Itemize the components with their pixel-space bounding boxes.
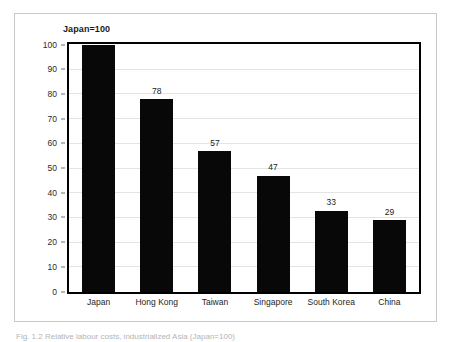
x-axis-category-label: Singapore — [254, 297, 293, 307]
y-axis-tick-mark — [61, 143, 65, 144]
y-axis-tick-mark — [61, 69, 65, 70]
y-axis-tick-mark — [61, 266, 65, 267]
y-axis-tick-mark — [61, 118, 65, 119]
gridline — [69, 143, 419, 144]
y-axis-tick-label: 0 — [52, 287, 57, 297]
gridline — [69, 93, 419, 94]
y-axis-tick-mark — [61, 93, 65, 94]
y-axis-tick-mark — [61, 168, 65, 169]
x-axis-category-label: Hong Kong — [135, 297, 178, 307]
y-axis-tick-mark — [61, 291, 65, 292]
plot-area — [67, 42, 421, 294]
y-axis-tick-label: 20 — [48, 237, 57, 247]
figure-caption: Fig. 1.2 Relative labour costs, industri… — [16, 332, 426, 342]
y-axis-tick-label: 70 — [48, 114, 57, 124]
y-axis-tick-label: 60 — [48, 138, 57, 148]
y-axis-tick-label: 100 — [43, 40, 57, 50]
chart-title: Japan=100 — [63, 24, 110, 34]
y-axis: 0102030405060708090100 — [15, 42, 65, 294]
x-axis-category-label: South Korea — [308, 297, 355, 307]
gridline — [69, 69, 419, 70]
gridline — [69, 217, 419, 218]
y-axis-tick-mark — [61, 217, 65, 218]
y-axis-tick-label: 30 — [48, 212, 57, 222]
x-axis-category-label: Japan — [87, 297, 110, 307]
gridlines — [69, 44, 419, 292]
gridline — [69, 266, 419, 267]
x-axis-category-label: Taiwan — [202, 297, 228, 307]
y-axis-tick-mark — [61, 242, 65, 243]
y-axis-tick-mark — [61, 44, 65, 45]
gridline — [69, 192, 419, 193]
gridline — [69, 168, 419, 169]
y-axis-tick-label: 40 — [48, 188, 57, 198]
figure-card: Japan=100 0102030405060708090100 7857473… — [14, 13, 437, 322]
y-axis-tick-label: 50 — [48, 163, 57, 173]
gridline — [69, 118, 419, 119]
y-axis-tick-label: 10 — [48, 262, 57, 272]
y-axis-tick-label: 80 — [48, 89, 57, 99]
gridline — [69, 242, 419, 243]
y-axis-tick-mark — [61, 192, 65, 193]
x-axis: JapanHong KongTaiwanSingaporeSouth Korea… — [67, 297, 421, 315]
y-axis-tick-label: 90 — [48, 64, 57, 74]
x-axis-category-label: China — [378, 297, 400, 307]
